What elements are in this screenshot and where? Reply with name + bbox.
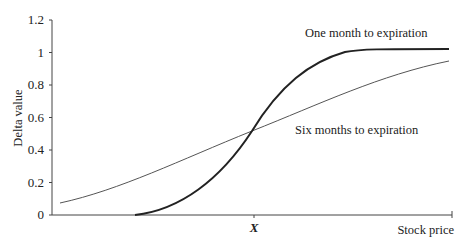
xtick-strike: X bbox=[249, 220, 259, 235]
ytick-0.6: 0.6 bbox=[28, 110, 45, 125]
ytick-0.2: 0.2 bbox=[28, 175, 44, 190]
ytick-0: 0 bbox=[38, 207, 45, 222]
x-axis-label: Stock price bbox=[397, 223, 454, 237]
y-axis-label: Delta value bbox=[11, 89, 25, 147]
ytick-1.2: 1.2 bbox=[28, 12, 44, 27]
ytick-0.4: 0.4 bbox=[28, 142, 45, 157]
ytick-0.8: 0.8 bbox=[28, 77, 44, 92]
ytick-1: 1 bbox=[38, 45, 45, 60]
delta-chart: 1.2 1 0.8 0.6 0.4 0.2 0 Delta value X St… bbox=[0, 0, 471, 247]
one-month-label: One month to expiration bbox=[305, 26, 428, 40]
six-months-label: Six months to expiration bbox=[295, 123, 419, 137]
